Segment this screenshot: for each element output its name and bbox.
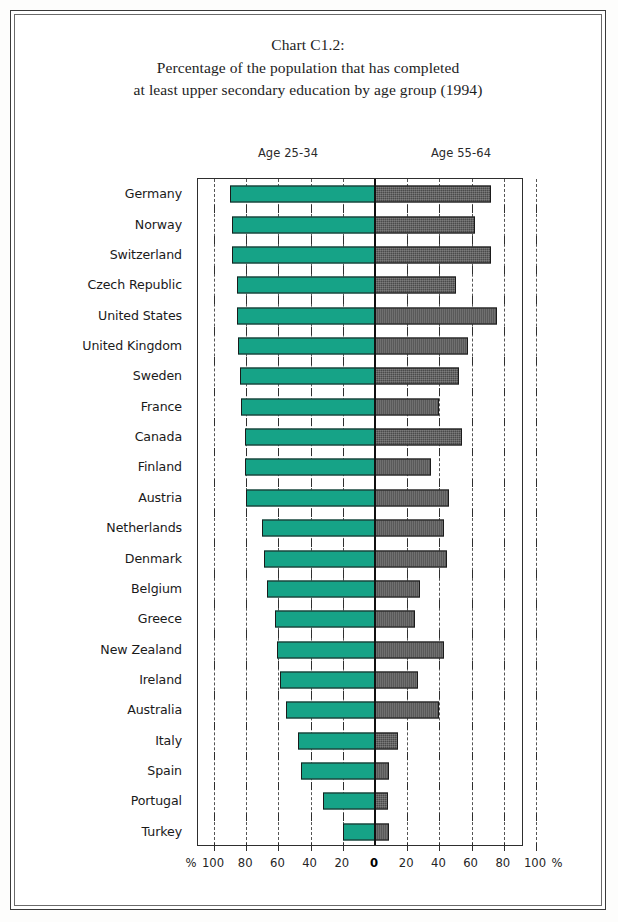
bar-age-55-64	[375, 732, 398, 749]
category-label: Italy	[155, 732, 182, 747]
bar-age-25-34	[238, 337, 375, 354]
bar-age-25-34	[245, 459, 375, 476]
chart-title: Chart C1.2: Percentage of the population…	[14, 34, 602, 102]
bar-age-25-34	[262, 520, 375, 537]
bar-age-25-34	[246, 489, 375, 506]
bar-age-25-34	[280, 671, 375, 688]
bar-age-55-64	[375, 216, 475, 233]
x-tick-label-right-40: 40	[431, 856, 446, 870]
category-label: Spain	[147, 763, 182, 778]
chart-title-line-2: Percentage of the population that has co…	[14, 57, 602, 80]
bar-age-55-64	[375, 489, 449, 506]
x-axis-unit-left: %	[185, 856, 196, 870]
bar-age-55-64	[375, 520, 444, 537]
bar-age-55-64	[375, 307, 497, 324]
bar-age-25-34	[298, 732, 375, 749]
bar-age-25-34	[267, 580, 375, 597]
category-label: Czech Republic	[88, 277, 183, 292]
bar-age-25-34	[237, 307, 375, 324]
chart-title-line-1: Chart C1.2:	[14, 34, 602, 57]
bar-age-25-34	[241, 398, 375, 415]
x-axis-unit-right: %	[551, 856, 562, 870]
category-label: Finland	[138, 459, 182, 474]
bar-age-25-34	[323, 793, 375, 810]
category-label: Canada	[135, 429, 182, 444]
bar-age-25-34	[286, 702, 375, 719]
bar-age-55-64	[375, 368, 459, 385]
x-tick-label-left-100: 100	[202, 856, 224, 870]
bar-age-55-64	[375, 793, 388, 810]
bar-age-55-64	[375, 337, 468, 354]
bar-age-55-64	[375, 763, 389, 780]
x-tick-label-right-100: 100	[524, 856, 546, 870]
category-label: Ireland	[139, 672, 182, 687]
x-tick-label-left-80: 80	[238, 856, 253, 870]
category-label: France	[141, 398, 182, 413]
category-label: United Kingdom	[82, 338, 182, 353]
bar-age-55-64	[375, 186, 491, 203]
x-tick-label-0: 0	[370, 856, 378, 870]
bar-age-25-34	[264, 550, 375, 567]
bar-age-25-34	[232, 216, 375, 233]
legend-label-age-25-34: Age 25-34	[203, 146, 373, 160]
category-label: Germany	[125, 186, 182, 201]
bar-age-25-34	[237, 277, 375, 294]
bar-age-25-34	[232, 246, 375, 263]
chart-title-line-3: at least upper secondary education by ag…	[14, 79, 602, 102]
zero-axis-line	[374, 179, 376, 845]
bar-age-25-34	[277, 641, 375, 658]
x-tick-label-left-20: 20	[334, 856, 349, 870]
bar-age-55-64	[375, 398, 439, 415]
category-label: New Zealand	[100, 641, 182, 656]
category-label: Denmark	[125, 550, 182, 565]
category-label: Netherlands	[106, 520, 182, 535]
bar-age-55-64	[375, 611, 415, 628]
bar-age-25-34	[245, 429, 375, 446]
bar-age-55-64	[375, 429, 462, 446]
value-axis-labels: 10080604020020406080100%%	[0, 856, 618, 882]
category-label: Greece	[138, 611, 182, 626]
category-label: Austria	[138, 489, 182, 504]
category-label: Australia	[127, 702, 182, 717]
category-label: Turkey	[142, 823, 182, 838]
bar-age-55-64	[375, 459, 431, 476]
bar-age-25-34	[240, 368, 375, 385]
x-tick-label-right-80: 80	[495, 856, 510, 870]
bar-age-55-64	[375, 702, 439, 719]
x-tick-label-left-40: 40	[302, 856, 317, 870]
plot-inner	[198, 179, 522, 845]
x-tick-label-right-60: 60	[463, 856, 478, 870]
bar-age-25-34	[343, 823, 375, 840]
category-label: United States	[98, 307, 182, 322]
category-label: Belgium	[131, 580, 182, 595]
bar-age-55-64	[375, 550, 447, 567]
bar-age-55-64	[375, 671, 418, 688]
category-label: Portugal	[131, 793, 182, 808]
bar-age-25-34	[230, 186, 375, 203]
plot-area	[197, 178, 523, 846]
x-tick-label-left-60: 60	[270, 856, 285, 870]
chart-page: Chart C1.2: Percentage of the population…	[0, 0, 618, 922]
legend-label-age-55-64: Age 55-64	[376, 146, 546, 160]
bar-age-55-64	[375, 641, 444, 658]
category-label: Switzerland	[110, 246, 182, 261]
bar-age-55-64	[375, 580, 420, 597]
category-label: Norway	[135, 216, 182, 231]
category-axis-labels: GermanyNorwaySwitzerlandCzech RepublicUn…	[40, 178, 190, 846]
bar-age-55-64	[375, 823, 389, 840]
bar-age-55-64	[375, 277, 456, 294]
bar-age-25-34	[301, 763, 375, 780]
bar-age-25-34	[275, 611, 375, 628]
category-label: Sweden	[133, 368, 182, 383]
bar-age-55-64	[375, 246, 491, 263]
x-tick-label-right-20: 20	[399, 856, 414, 870]
